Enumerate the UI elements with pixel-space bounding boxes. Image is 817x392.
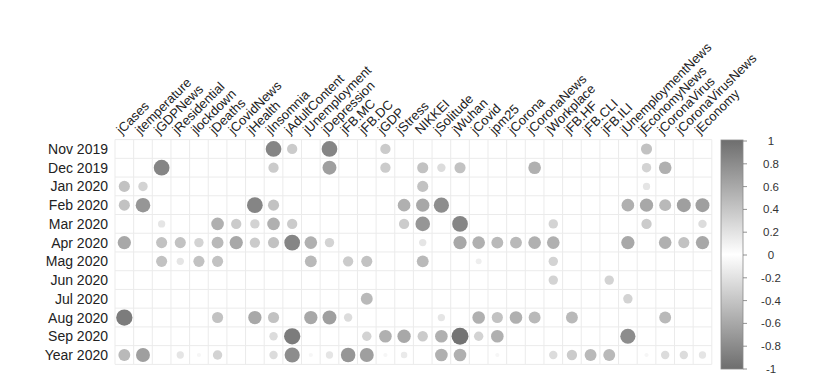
grid-lines (115, 140, 712, 365)
data-circle (247, 197, 263, 213)
row-labels: Nov 2019Dec 2019Jan 2020Feb 2020Mar 2020… (45, 141, 109, 363)
data-circle (380, 163, 390, 173)
data-circle (360, 348, 374, 362)
data-circle (250, 219, 259, 228)
row-label: Feb 2020 (49, 197, 108, 213)
colorbar-tick-label: -0.2 (761, 272, 781, 284)
data-circle (397, 330, 410, 343)
data-circle (621, 236, 634, 249)
row-label: Jun 2020 (50, 272, 108, 288)
data-circle (212, 256, 223, 267)
data-circle (326, 351, 333, 358)
data-circle (343, 256, 353, 266)
row-label: Apr 2020 (51, 235, 108, 251)
colorbar-tick-label: -1 (766, 363, 776, 375)
data-circle (399, 219, 409, 229)
data-circle (417, 255, 429, 267)
data-circle (659, 161, 672, 174)
data-circle (379, 330, 392, 343)
data-circle (322, 141, 338, 157)
data-circle (380, 144, 390, 154)
data-circle (491, 237, 503, 249)
data-circle (472, 311, 485, 324)
data-circle (643, 183, 650, 190)
data-circle (659, 312, 671, 324)
data-circle (116, 309, 132, 325)
data-circle (641, 219, 651, 229)
data-circle (211, 218, 224, 231)
data-circle (323, 161, 337, 175)
data-circle (136, 198, 151, 213)
data-circle (622, 199, 635, 212)
data-circle (454, 162, 465, 173)
data-circle (640, 199, 653, 212)
data-circle (454, 349, 467, 362)
data-circle (566, 312, 578, 324)
data-circle (547, 236, 560, 249)
data-circle (678, 237, 689, 248)
data-circle (603, 349, 615, 361)
colorbar-tick-label: 0 (768, 249, 774, 261)
data-circle (620, 329, 635, 344)
data-circle (268, 312, 279, 323)
colorbar-tick-label: 0.6 (763, 181, 779, 193)
data-circle (698, 220, 706, 228)
data-circle (696, 236, 709, 249)
data-circle (510, 311, 523, 324)
data-circle (287, 219, 297, 229)
data-circle (419, 239, 426, 246)
data-circle (118, 236, 131, 249)
row-label: Year 2020 (45, 347, 109, 363)
row-label: Dec 2019 (48, 160, 108, 176)
data-circle (268, 237, 279, 248)
data-circle (529, 312, 541, 324)
data-circle (193, 256, 204, 267)
data-circle (453, 236, 466, 249)
data-circle (680, 351, 688, 359)
data-circle (156, 237, 167, 248)
data-circle (641, 143, 652, 154)
data-circle (549, 351, 557, 359)
row-label: Sep 2020 (48, 328, 108, 344)
data-circle (416, 199, 429, 212)
colorbar: 10.80.60.40.20-0.2-0.4-0.6-0.8-1 (721, 135, 782, 375)
data-circle (435, 330, 448, 343)
data-circle (528, 161, 541, 174)
data-circle (305, 255, 317, 267)
data-circle (472, 236, 485, 249)
colorbar-tick-label: -0.6 (761, 317, 781, 329)
data-circle (231, 219, 241, 229)
row-label: Jan 2020 (50, 178, 108, 194)
data-circle (549, 219, 558, 228)
colorbar-ticks: 10.80.60.40.20-0.2-0.4-0.6-0.8-1 (743, 135, 782, 375)
data-circle (197, 353, 201, 357)
data-circle (268, 163, 278, 173)
data-circle (266, 141, 282, 157)
data-circle (642, 163, 651, 172)
data-circle (268, 200, 279, 211)
colorbar-tick-label: 0.8 (763, 158, 779, 170)
data-circle (361, 256, 372, 267)
colorbar-tick-label: 0.2 (763, 226, 779, 238)
data-circle (585, 349, 597, 361)
data-circle (361, 293, 373, 305)
data-circle (452, 328, 469, 345)
data-circle (344, 313, 352, 321)
data-circle (398, 199, 411, 212)
data-circle (138, 182, 147, 191)
data-circle (417, 162, 428, 173)
data-circle (230, 236, 243, 249)
data-circle (284, 235, 300, 251)
data-circle (267, 218, 280, 231)
data-circle (659, 236, 672, 249)
data-circle (177, 351, 184, 358)
data-circle (510, 237, 522, 249)
data-circle (605, 275, 614, 284)
data-circle (699, 351, 706, 358)
correlation-plot: Nov 2019Dec 2019Jan 2020Feb 2020Mar 2020… (0, 0, 817, 392)
data-circle (696, 198, 710, 212)
data-circle (437, 163, 445, 171)
data-circle (325, 238, 334, 247)
row-label: Mar 2020 (49, 216, 108, 232)
data-circle (452, 216, 468, 232)
